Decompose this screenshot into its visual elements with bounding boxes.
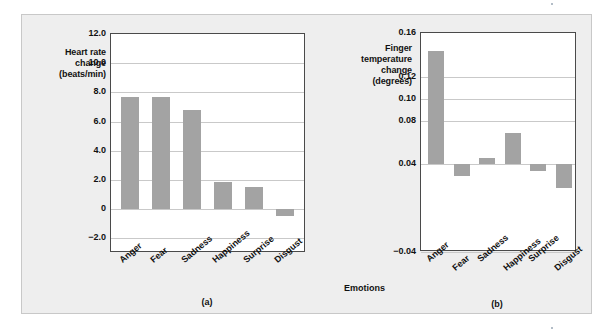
y-tick-label: 0.12 bbox=[382, 72, 416, 81]
y-axis-title-line: Finger bbox=[328, 43, 412, 54]
y-tick-label: 0 bbox=[74, 204, 106, 213]
y-tick-label: 12.0 bbox=[74, 29, 106, 38]
chart-panel-b: Fingertemperaturechange(degrees) 0.160.1… bbox=[322, 15, 593, 315]
registration-dot-bottom bbox=[551, 327, 553, 329]
y-tick-label: 0.04 bbox=[382, 159, 416, 168]
bar bbox=[556, 164, 572, 188]
bar bbox=[479, 158, 495, 165]
bar-series-b bbox=[421, 33, 575, 250]
x-axis-title: Emotions bbox=[344, 283, 385, 293]
chart-panel-a: Heart ratechange(beats/min) 12.010.08.06… bbox=[22, 15, 322, 315]
bar bbox=[276, 209, 294, 216]
y-tick-label: 0.10 bbox=[382, 94, 416, 103]
figure-panel: Heart ratechange(beats/min) 12.010.08.06… bbox=[21, 14, 592, 314]
bar bbox=[428, 51, 444, 165]
bar bbox=[454, 164, 470, 176]
bar bbox=[505, 133, 521, 165]
bar bbox=[245, 187, 263, 209]
y-tick-label: 6.0 bbox=[74, 117, 106, 126]
y-tick-label: 2.0 bbox=[74, 175, 106, 184]
plot-area-b bbox=[420, 32, 576, 251]
y-tick-label: −2.0 bbox=[74, 233, 106, 242]
y-axis-title-line: temperature bbox=[328, 54, 412, 65]
y-tick-label: 8.0 bbox=[74, 87, 106, 96]
bar bbox=[530, 164, 546, 171]
plot-area-a bbox=[110, 33, 305, 252]
bar-series-a bbox=[111, 34, 304, 251]
caption-a: (a) bbox=[142, 297, 272, 307]
caption-b: (b) bbox=[432, 299, 562, 309]
bar bbox=[214, 182, 232, 209]
bar bbox=[152, 97, 170, 209]
registration-dot-top bbox=[551, 3, 553, 5]
x-tick-label: Fear bbox=[451, 254, 471, 273]
y-tick-label: 0.16 bbox=[382, 28, 416, 37]
y-tick-label: 4.0 bbox=[74, 146, 106, 155]
y-tick-label: 0.08 bbox=[382, 116, 416, 125]
y-axis-title-line: (beats/min) bbox=[28, 69, 106, 80]
y-tick-label: −0.04 bbox=[382, 247, 416, 256]
bar bbox=[183, 110, 201, 209]
y-tick-label: 10.0 bbox=[74, 58, 106, 67]
bar bbox=[121, 97, 139, 209]
